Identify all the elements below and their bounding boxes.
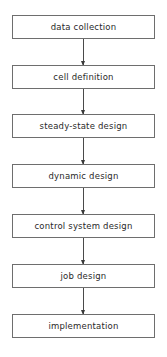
step-label: cell definition (53, 72, 113, 82)
arrow-connector (83, 138, 84, 164)
step-dynamic-design: dynamic design (12, 164, 155, 188)
step-label: data collection (51, 22, 117, 32)
step-job-design: job design (12, 264, 155, 288)
step-implementation: implementation (12, 314, 155, 338)
flowchart: data collection cell definition steady-s… (0, 0, 167, 357)
step-label: implementation (48, 321, 118, 331)
step-label: steady-state design (40, 121, 128, 131)
step-cell-definition: cell definition (12, 65, 155, 89)
arrow-connector (83, 39, 84, 65)
step-control-system-design: control system design (12, 214, 155, 238)
arrow-connector (83, 188, 84, 214)
step-label: control system design (35, 221, 133, 231)
arrow-connector (83, 288, 84, 314)
step-data-collection: data collection (12, 15, 155, 39)
step-label: job design (61, 271, 107, 281)
arrow-connector (83, 89, 84, 114)
step-label: dynamic design (48, 171, 118, 181)
step-steady-state-design: steady-state design (12, 114, 155, 138)
arrow-connector (83, 238, 84, 264)
